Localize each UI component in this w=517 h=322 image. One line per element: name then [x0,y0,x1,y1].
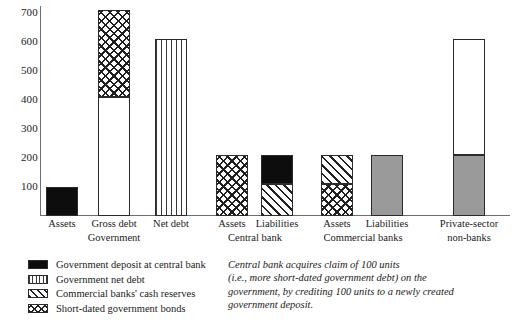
x-label-private-sector: Private-sector [425,218,513,230]
bar-commercial-banks-assets [321,155,353,216]
segment-government-net-debt [155,39,187,216]
x-axis-labels: Assets Gross debt Net debt Assets Liabil… [0,218,517,252]
x-label-commercial-banks-liabilities: Liabilities [351,218,423,230]
bar-government-gross-debt [98,10,130,216]
bar-central-bank-liabilities [261,155,293,216]
legend-label: Short-dated government bonds [56,302,185,316]
legend-item: Commercial banks' cash reserves [28,287,243,302]
legend-label: Commercial banks' cash reserves [56,287,195,301]
x-group-label-commercial-banks: Commercial banks [305,232,421,244]
x-group-label-central-bank: Central bank [201,232,309,244]
segment-longer-dated-government-debt [98,97,130,216]
annotation-line-1: Central bank acquires claim of 100 units [228,258,513,271]
segment-other-assets [453,39,485,155]
annotation-line-2: (i.e., more short-dated government debt)… [228,271,513,284]
bars-container [0,0,517,216]
segment-short-dated-government-bonds [98,10,130,97]
legend-swatch-government-net-debt-icon [28,275,48,284]
annotation-line-3: government, by crediting 100 units to a … [228,285,513,298]
legend: Government deposit at central bank Gover… [28,258,243,318]
x-group-label-government: Government [52,232,176,244]
bar-government-net-debt [155,39,187,216]
legend-label: Government deposit at central bank [56,258,206,272]
annotation-text: Central bank acquires claim of 100 units… [228,258,513,312]
x-label-private-sector-line2: non-banks [425,232,513,244]
plot-area: 700 600 500 400 300 200 100 [0,0,517,232]
segment-short-dated-government-bonds [216,155,248,216]
segment-commercial-banks-cash-reserves [261,184,293,216]
legend-swatch-short-dated-bonds-icon [28,304,48,313]
segment-government-deposit-at-central-bank [261,155,293,184]
bar-central-bank-assets [216,155,248,216]
legend-label: Government net debt [56,273,145,287]
segment-short-dated-government-bonds [321,184,353,216]
annotation-line-4: government deposit. [228,298,513,311]
legend-item: Government net debt [28,273,243,288]
chart-figure: 700 600 500 400 300 200 100 [0,0,517,322]
bar-commercial-banks-liabilities [371,155,403,216]
legend-swatch-government-deposit-icon [28,260,48,269]
segment-bank-deposits [453,155,485,216]
bar-private-sector-non-banks [453,39,485,216]
segment-commercial-banks-cash-reserves [321,155,353,184]
legend-item: Short-dated government bonds [28,302,243,317]
segment-government-deposit-at-central-bank [46,187,78,216]
legend-item: Government deposit at central bank [28,258,243,273]
segment-bank-deposits [371,155,403,216]
legend-swatch-cash-reserves-icon [28,289,48,298]
bar-government-assets [46,187,78,216]
